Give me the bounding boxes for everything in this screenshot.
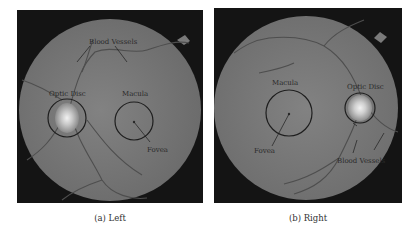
label-blood-vessels-right: Blood Vessels [337,157,386,165]
label-fovea-left: Fovea [147,146,168,154]
optic-disc-right [348,95,372,121]
optic-disc-left [55,103,79,133]
label-optic-disc-left: Optic Disc [49,90,86,98]
fundus-disc [19,19,201,201]
fundus-image-right: Macula Optic Disc Fovea Blood Vessels [214,8,402,203]
retina-left-graphic: Blood Vessels Optic Disc Macula Fovea [17,10,203,203]
label-fovea-right: Fovea [254,147,275,155]
fundus-image-left: Blood Vessels Optic Disc Macula Fovea [17,10,203,203]
retina-right-graphic: Macula Optic Disc Fovea Blood Vessels [214,8,402,203]
label-optic-disc-right: Optic Disc [347,83,384,91]
caption-right: (b) Right [213,213,403,223]
label-macula-left: Macula [122,90,148,98]
label-blood-vessels-left: Blood Vessels [89,38,138,46]
label-macula-right: Macula [272,79,298,87]
caption-left: (a) Left [15,213,205,223]
